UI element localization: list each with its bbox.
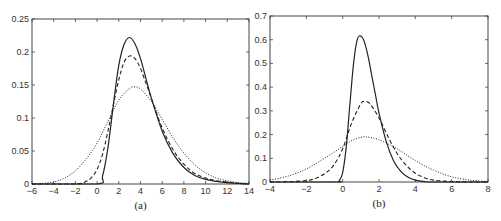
chart-b-caption: (b) <box>373 197 386 210</box>
chart-b-ytick-label: 0.7 <box>254 11 267 21</box>
chart-a-series-solid <box>32 37 249 184</box>
chart-b-ytick-label: 0 <box>262 177 267 187</box>
chart-b-ytick-label: 0.1 <box>254 153 267 163</box>
chart-b-xtick-label: 2 <box>376 184 381 194</box>
chart-a-xtick-label: 4 <box>138 186 143 196</box>
chart-b-ytick-label: 0.6 <box>254 35 267 45</box>
chart-b-series-solid <box>270 36 488 182</box>
chart-b-xtick-label: −2 <box>301 184 311 194</box>
chart-a-xtick-label: 2 <box>116 186 121 196</box>
figure: −6−4−20246810121400.050.10.150.20.25(a)−… <box>0 0 501 221</box>
chart-b-series-dotted <box>270 137 488 182</box>
chart-a-xtick-label: −2 <box>70 186 80 196</box>
chart-b-frame <box>270 16 488 182</box>
chart-a-ytick-label: 0.1 <box>16 113 29 123</box>
chart-a-xtick-label: 6 <box>160 186 165 196</box>
chart-a-caption: (a) <box>134 199 147 212</box>
chart-b-xtick-label: 6 <box>449 184 454 194</box>
chart-a-frame <box>32 19 249 184</box>
chart-b-ytick-label: 0.3 <box>254 106 267 116</box>
chart-b-xtick-label: 0 <box>340 184 345 194</box>
chart-a-xtick-label: −4 <box>49 186 59 196</box>
chart-b-ytick-label: 0.5 <box>254 58 267 68</box>
chart-a-xtick-label: 12 <box>222 186 232 196</box>
chart-a-ytick-label: 0 <box>24 179 29 189</box>
chart-a-series-dotted <box>32 87 249 184</box>
chart-a-ytick-label: 0.05 <box>11 146 29 156</box>
chart-a-ytick-label: 0.15 <box>11 80 29 90</box>
chart-a-xtick-label: 0 <box>95 186 100 196</box>
chart-b-ytick-label: 0.4 <box>254 82 267 92</box>
chart-a-xtick-label: 8 <box>181 186 186 196</box>
chart-a-xtick-label: 10 <box>201 186 211 196</box>
chart-a-ytick-label: 0.25 <box>11 14 29 24</box>
chart-a-series-dashed <box>32 56 249 184</box>
chart-b-xtick-label: 4 <box>413 184 418 194</box>
chart-b-ytick-label: 0.2 <box>254 130 267 140</box>
chart-a-xtick-label: 14 <box>244 186 254 196</box>
chart-b-xtick-label: 8 <box>485 184 490 194</box>
chart-a-ytick-label: 0.2 <box>16 47 29 57</box>
